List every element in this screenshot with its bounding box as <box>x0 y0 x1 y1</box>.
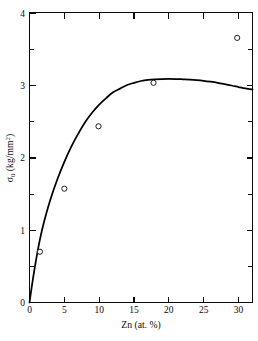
x-ticklabel-15: 15 <box>129 305 139 315</box>
chart-svg: 0 5 10 15 20 25 30 0 1 2 3 4 Zn (at. %) … <box>0 0 258 341</box>
data-point <box>62 186 67 191</box>
x-ticklabel-10: 10 <box>94 305 104 315</box>
data-point <box>37 249 42 254</box>
data-point <box>96 124 101 129</box>
y-ticklabel-2: 2 <box>20 153 25 163</box>
x-ticklabel-20: 20 <box>164 305 174 315</box>
y-ticklabel-1: 1 <box>20 226 25 236</box>
y-ticklabel-0: 0 <box>20 298 25 308</box>
x-ticklabel-30: 30 <box>234 305 244 315</box>
data-point <box>151 80 156 85</box>
y-ticklabel-3: 3 <box>20 81 25 91</box>
x-ticklabel-25: 25 <box>199 305 209 315</box>
chart-figure: 0 5 10 15 20 25 30 0 1 2 3 4 Zn (at. %) … <box>0 0 258 341</box>
y-axis-title-units-close: ) <box>4 134 16 137</box>
chart-background <box>0 0 258 341</box>
x-ticklabel-5: 5 <box>62 305 67 315</box>
x-ticklabel-0: 0 <box>27 305 32 315</box>
y-axis-title-units-open: (kg/mm <box>4 140 16 174</box>
y-ticklabel-4: 4 <box>20 9 25 19</box>
data-point <box>235 35 240 40</box>
x-axis-title: Zn (at. %) <box>121 319 161 331</box>
